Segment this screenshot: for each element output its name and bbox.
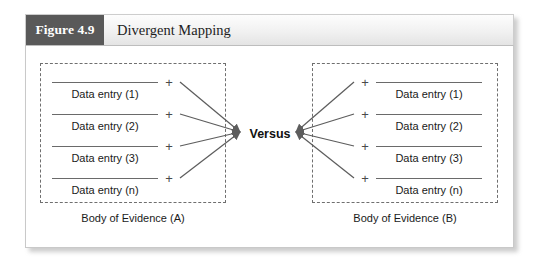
figure-container: Figure 4.9 Divergent Mapping + Data entr… — [0, 0, 541, 273]
plus-icon-b-2: + — [360, 108, 370, 121]
entry-label-b-1: Data entry (1) — [376, 88, 482, 100]
figure-number-tag: Figure 4.9 — [26, 15, 104, 45]
versus-label: Versus — [244, 127, 296, 141]
entry-label-a-1: Data entry (1) — [52, 88, 158, 100]
entry-rule-a-2 — [52, 114, 158, 115]
entry-rule-a-1 — [52, 82, 158, 83]
body-of-evidence-b-box — [312, 63, 498, 203]
figure-title: Divergent Mapping — [104, 15, 513, 45]
figure-header-bar: Figure 4.9 Divergent Mapping — [25, 14, 514, 46]
entry-label-a-3: Data entry (3) — [52, 152, 158, 164]
entry-rule-b-1 — [376, 82, 482, 83]
plus-icon-a-4: + — [164, 172, 174, 185]
plus-icon-b-4: + — [360, 172, 370, 185]
entry-rule-a-4 — [52, 178, 158, 179]
entry-label-b-2: Data entry (2) — [376, 120, 482, 132]
entry-label-b-4: Data entry (n) — [376, 184, 482, 196]
entry-rule-a-3 — [52, 146, 158, 147]
entry-label-b-3: Data entry (3) — [376, 152, 482, 164]
plus-icon-a-3: + — [164, 140, 174, 153]
body-of-evidence-b-caption: Body of Evidence (B) — [312, 212, 498, 224]
body-of-evidence-a-box — [40, 63, 226, 203]
diagram-area: + Data entry (1) + Data entry (2) + Data… — [26, 46, 513, 247]
plus-icon-a-2: + — [164, 108, 174, 121]
entry-label-a-2: Data entry (2) — [52, 120, 158, 132]
plus-icon-a-1: + — [164, 76, 174, 89]
entry-rule-b-2 — [376, 114, 482, 115]
entry-rule-b-3 — [376, 146, 482, 147]
entry-rule-b-4 — [376, 178, 482, 179]
plus-icon-b-3: + — [360, 140, 370, 153]
body-of-evidence-a-caption: Body of Evidence (A) — [40, 212, 226, 224]
entry-label-a-4: Data entry (n) — [52, 184, 158, 196]
plus-icon-b-1: + — [360, 76, 370, 89]
